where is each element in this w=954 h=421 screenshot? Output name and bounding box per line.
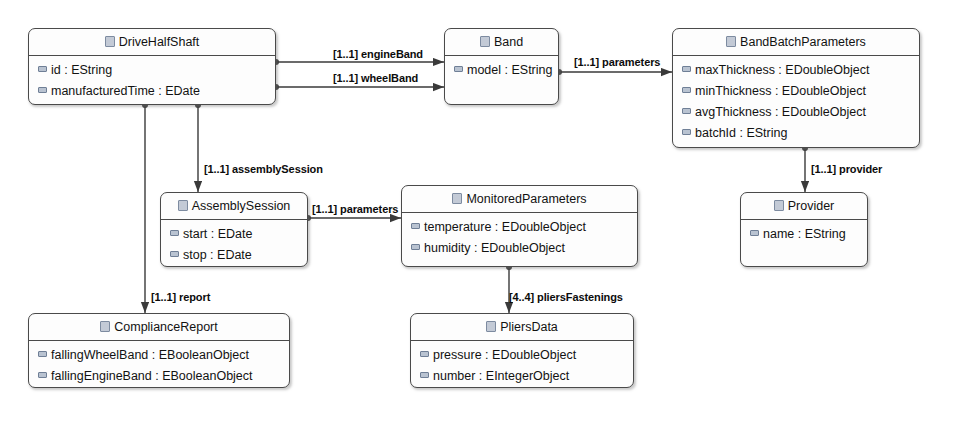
class-attributes-compliancereport: fallingWheelBand : EBooleanObjectfalling… <box>29 341 289 391</box>
ecore-attribute-icon <box>411 223 420 229</box>
attribute-label: name : EString <box>763 227 846 241</box>
class-attribute[interactable]: temperature : EDoubleObject <box>402 217 637 238</box>
ecore-attribute-icon <box>750 230 759 236</box>
ecore-attribute-icon <box>454 66 463 72</box>
edge-label-parameters-band[interactable]: [1..1] parameters <box>574 56 660 68</box>
ecore-class-icon <box>105 36 115 47</box>
class-attribute[interactable]: model : EString <box>445 60 558 81</box>
class-name: Band <box>494 35 523 49</box>
attribute-label: temperature : EDoubleObject <box>424 220 586 234</box>
class-attribute[interactable]: start : EDate <box>161 224 307 245</box>
uml-class-pliersdata[interactable]: PliersDatapressure : EDoubleObjectnumber… <box>410 313 634 388</box>
class-attributes-assemblysession: start : EDatestop : EDate <box>161 220 307 270</box>
class-name: BandBatchParameters <box>740 35 866 49</box>
ecore-attribute-icon <box>682 108 691 114</box>
class-attributes-band: model : EString <box>445 56 558 85</box>
class-attribute[interactable]: stop : EDate <box>161 245 307 266</box>
attribute-label: batchId : EString <box>695 126 787 140</box>
ecore-attribute-icon <box>38 87 47 93</box>
class-attribute[interactable]: id : EString <box>29 60 275 81</box>
edge-label-pliersFastenings[interactable]: [4..4] pliersFastenings <box>509 291 623 303</box>
class-header-drivehalfshaft: DriveHalfShaft <box>29 29 275 56</box>
ecore-attribute-icon <box>170 230 179 236</box>
class-attribute[interactable]: batchId : EString <box>673 123 919 144</box>
class-attribute[interactable]: avgThickness : EDoubleObject <box>673 102 919 123</box>
ecore-attribute-icon <box>682 66 691 72</box>
class-attribute[interactable]: manufacturedTime : EDate <box>29 81 275 102</box>
edge-assemblySession <box>195 102 201 192</box>
attribute-label: fallingWheelBand : EBooleanObject <box>51 348 249 362</box>
attribute-label: id : EString <box>51 63 112 77</box>
uml-class-bandbatchparameters[interactable]: BandBatchParametersmaxThickness : EDoubl… <box>672 28 920 148</box>
ecore-attribute-icon <box>170 251 179 257</box>
class-name: PliersData <box>500 320 558 334</box>
ecore-attribute-icon <box>420 351 429 357</box>
class-attribute[interactable]: minThickness : EDoubleObject <box>673 81 919 102</box>
class-attributes-pliersdata: pressure : EDoubleObjectnumber : EIntege… <box>411 341 633 391</box>
ecore-attribute-icon <box>38 351 47 357</box>
edge-report <box>142 102 148 313</box>
ecore-attribute-icon <box>420 372 429 378</box>
edge-parameters-assembly <box>305 215 401 221</box>
uml-class-band[interactable]: Bandmodel : EString <box>444 28 559 105</box>
class-name: Provider <box>788 199 835 213</box>
class-attribute[interactable]: fallingEngineBand : EBooleanObject <box>29 366 289 387</box>
uml-class-monitoredparameters[interactable]: MonitoredParameterstemperature : EDouble… <box>401 185 638 267</box>
class-attribute[interactable]: maxThickness : EDoubleObject <box>673 60 919 81</box>
class-name: MonitoredParameters <box>466 192 586 206</box>
ecore-class-icon <box>452 193 462 204</box>
ecore-attribute-icon <box>682 87 691 93</box>
class-name: AssemblySession <box>192 199 291 213</box>
attribute-label: start : EDate <box>183 227 252 241</box>
class-attribute[interactable]: pressure : EDoubleObject <box>411 345 633 366</box>
class-attribute[interactable]: fallingWheelBand : EBooleanObject <box>29 345 289 366</box>
class-header-compliancereport: ComplianceReport <box>29 314 289 341</box>
class-attributes-provider: name : EString <box>741 220 867 249</box>
ecore-class-icon <box>178 200 188 211</box>
attribute-label: humidity : EDoubleObject <box>424 241 565 255</box>
edge-wheelBand <box>273 84 444 90</box>
attribute-label: model : EString <box>467 63 552 77</box>
class-attributes-bandbatchparameters: maxThickness : EDoubleObjectminThickness… <box>673 56 919 148</box>
attribute-label: minThickness : EDoubleObject <box>695 84 866 98</box>
class-attributes-drivehalfshaft: id : EStringmanufacturedTime : EDate <box>29 56 275 106</box>
edge-label-report[interactable]: [1..1] report <box>151 291 210 303</box>
uml-class-drivehalfshaft[interactable]: DriveHalfShaftid : EStringmanufacturedTi… <box>28 28 276 105</box>
uml-class-provider[interactable]: Providername : EString <box>740 192 868 267</box>
edge-label-engineBand[interactable]: [1..1] engineBand <box>333 48 423 60</box>
edge-label-assemblySession[interactable]: [1..1] assemblySession <box>204 163 323 175</box>
ecore-attribute-icon <box>682 129 691 135</box>
class-attribute[interactable]: name : EString <box>741 224 867 245</box>
attribute-label: manufacturedTime : EDate <box>51 84 200 98</box>
attribute-label: number : EIntegerObject <box>433 369 569 383</box>
ecore-attribute-icon <box>38 66 47 72</box>
class-name: DriveHalfShaft <box>119 35 200 49</box>
class-header-bandbatchparameters: BandBatchParameters <box>673 29 919 56</box>
uml-class-assemblysession[interactable]: AssemblySessionstart : EDatestop : EDate <box>160 192 308 267</box>
uml-class-diagram-canvas: DriveHalfShaftid : EStringmanufacturedTi… <box>0 0 954 421</box>
edge-label-wheelBand[interactable]: [1..1] wheelBand <box>333 72 418 84</box>
attribute-label: maxThickness : EDoubleObject <box>695 63 869 77</box>
ecore-attribute-icon <box>38 372 47 378</box>
class-attributes-monitoredparameters: temperature : EDoubleObjecthumidity : ED… <box>402 213 637 263</box>
class-attribute[interactable]: humidity : EDoubleObject <box>402 238 637 259</box>
class-attribute[interactable]: number : EIntegerObject <box>411 366 633 387</box>
attribute-label: avgThickness : EDoubleObject <box>695 105 866 119</box>
edge-label-provider[interactable]: [1..1] provider <box>811 163 882 175</box>
edge-parameters-band <box>556 69 672 75</box>
class-name: ComplianceReport <box>114 320 218 334</box>
edge-provider <box>802 145 808 192</box>
uml-class-compliancereport[interactable]: ComplianceReportfallingWheelBand : EBool… <box>28 313 290 388</box>
class-header-provider: Provider <box>741 193 867 220</box>
edge-pliersFastenings <box>506 264 512 313</box>
ecore-class-icon <box>774 200 784 211</box>
ecore-class-icon <box>100 321 110 332</box>
attribute-label: stop : EDate <box>183 248 252 262</box>
ecore-class-icon <box>480 36 490 47</box>
class-header-monitoredparameters: MonitoredParameters <box>402 186 637 213</box>
class-header-band: Band <box>445 29 558 56</box>
attribute-label: fallingEngineBand : EBooleanObject <box>51 369 253 383</box>
edge-label-parameters-assembly[interactable]: [1..1] parameters <box>312 203 398 215</box>
ecore-class-icon <box>486 321 496 332</box>
ecore-class-icon <box>726 36 736 47</box>
